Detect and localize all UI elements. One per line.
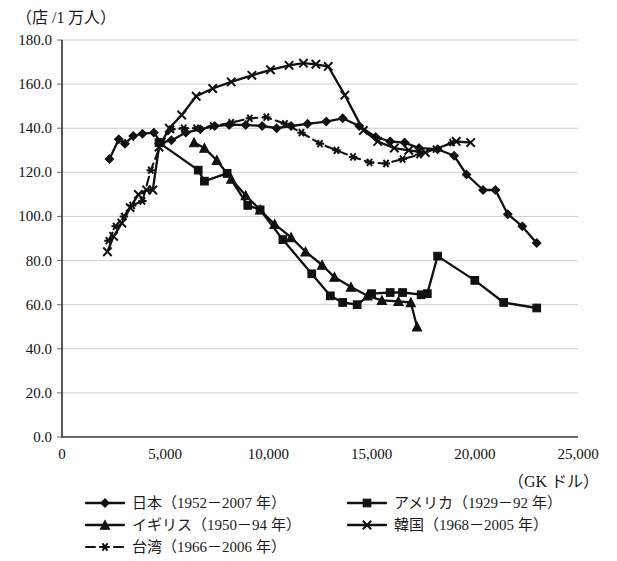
data-point-marker: [353, 301, 361, 309]
series-line: [110, 118, 537, 243]
data-point-marker: [365, 159, 373, 166]
data-point-marker: [332, 147, 340, 154]
data-point-marker: [491, 186, 499, 194]
y-tick-label: 180.0: [18, 32, 52, 48]
data-point-marker: [316, 140, 324, 147]
data-point-marker: [178, 111, 186, 119]
chart-legend: 日本（1952－2007 年）アメリカ（1929－92 年）イギリス（1950－…: [84, 492, 594, 558]
data-point-marker: [398, 156, 406, 163]
data-point-marker: [322, 117, 330, 125]
data-point-marker: [258, 122, 266, 130]
chart-series: [189, 138, 421, 331]
legend-marker-icon: [346, 495, 388, 511]
y-tick-label: 140.0: [18, 120, 52, 136]
data-point-marker: [201, 177, 209, 185]
y-tick-label: 160.0: [18, 76, 52, 92]
x-axis-title: （GK ドル）: [508, 468, 599, 492]
data-point-marker: [194, 166, 202, 174]
data-point-marker: [363, 499, 371, 507]
series-line: [108, 117, 452, 241]
y-tick-label: 120.0: [18, 164, 52, 180]
x-tick-label: 10,000: [248, 446, 289, 462]
data-point-marker: [303, 120, 311, 128]
data-point-marker: [262, 114, 270, 121]
data-point-marker: [101, 543, 109, 550]
legend-item[interactable]: 日本（1952－2007 年）: [84, 495, 346, 511]
data-point-marker: [308, 270, 316, 278]
x-tick-label: 0: [58, 446, 66, 462]
legend-marker-icon: [346, 517, 388, 533]
legend-marker-icon: [84, 517, 126, 533]
y-tick-label: 0.0: [33, 429, 52, 445]
data-point-marker: [327, 292, 335, 300]
data-point-marker: [424, 290, 432, 298]
legend-marker-icon: [84, 495, 126, 511]
legend-item[interactable]: 台湾（1966－2006 年）: [84, 539, 346, 555]
legend-item-label: 韓国（1968－2005 年）: [394, 518, 548, 533]
x-tick-label: 5,000: [148, 446, 182, 462]
data-point-marker: [200, 143, 209, 152]
y-tick-label: 20.0: [26, 385, 52, 401]
legend-item-label: 日本（1952－2007 年）: [132, 496, 286, 511]
legend-item[interactable]: アメリカ（1929－92 年）: [346, 495, 594, 511]
data-point-marker: [533, 304, 541, 312]
legend-item[interactable]: 韓国（1968－2005 年）: [346, 517, 594, 533]
legend-marker-icon: [84, 539, 126, 555]
data-point-marker: [272, 124, 280, 132]
data-point-marker: [104, 237, 112, 244]
data-point-marker: [246, 115, 254, 122]
data-point-marker: [412, 322, 421, 331]
y-tick-label: 100.0: [18, 208, 52, 224]
data-point-marker: [434, 252, 442, 260]
data-point-marker: [101, 499, 109, 507]
data-point-marker: [189, 138, 198, 147]
x-tick-label: 20,000: [454, 446, 495, 462]
y-tick-label: 40.0: [26, 341, 52, 357]
data-point-marker: [339, 299, 347, 307]
data-point-marker: [399, 289, 407, 297]
legend-item-label: 台湾（1966－2006 年）: [132, 540, 286, 555]
data-point-marker: [500, 299, 508, 307]
chart-series: [103, 59, 475, 256]
data-point-marker: [244, 202, 252, 210]
data-point-marker: [167, 136, 175, 144]
data-point-marker: [382, 160, 390, 167]
data-point-marker: [138, 130, 146, 138]
data-point-marker: [105, 155, 113, 163]
chart-series: [105, 114, 541, 247]
x-tick-label: 15,000: [351, 446, 392, 462]
legend-item-label: アメリカ（1929－92 年）: [394, 496, 562, 511]
x-tick-label: 25,000: [557, 446, 598, 462]
data-point-marker: [134, 190, 142, 198]
data-point-marker: [400, 138, 408, 146]
data-point-marker: [111, 223, 119, 230]
chart-figure: （店 /1 万人） 0.020.040.060.080.0100.0120.01…: [0, 0, 617, 561]
legend-item[interactable]: イギリス（1950－94 年）: [84, 517, 346, 533]
y-tick-label: 60.0: [26, 297, 52, 313]
data-point-marker: [297, 129, 305, 136]
legend-item-label: イギリス（1950－94 年）: [132, 518, 301, 533]
series-line: [159, 143, 537, 308]
data-point-marker: [192, 92, 200, 100]
data-point-marker: [341, 91, 349, 99]
data-point-marker: [279, 236, 287, 244]
data-point-marker: [471, 277, 479, 285]
y-tick-label: 80.0: [26, 253, 52, 269]
data-point-marker: [349, 153, 357, 160]
data-point-marker: [339, 114, 347, 122]
data-point-marker: [386, 289, 394, 297]
